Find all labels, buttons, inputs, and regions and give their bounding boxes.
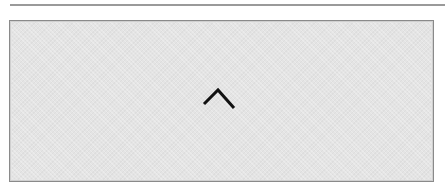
chevron-up-icon[interactable] (200, 86, 240, 112)
top-divider (10, 4, 445, 6)
